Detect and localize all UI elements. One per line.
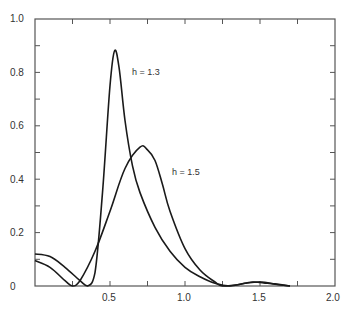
y-tick-label: 0 <box>10 281 16 292</box>
curve-h-1-5 <box>35 146 290 286</box>
y-tick-label: 1.0 <box>10 13 24 24</box>
plot-frame <box>35 19 335 286</box>
y-tick-label: 0.6 <box>10 120 24 131</box>
y-tick-label: 0.8 <box>10 67 24 78</box>
y-tick-label: 0.2 <box>10 227 24 238</box>
curve-label-h-1-3: h = 1.3 <box>132 67 160 77</box>
axis-ticks <box>35 19 335 286</box>
x-tick-label: 1.5 <box>252 292 266 303</box>
curve-label-h-1-5: h = 1.5 <box>172 167 200 177</box>
x-tick-label: 1.0 <box>177 292 191 303</box>
y-tick-label: 0.4 <box>10 174 24 185</box>
x-tick-label: 0.5 <box>102 292 116 303</box>
line-chart: 0 0.2 0.4 0.6 0.8 1.0 0.5 1.0 1.5 2.0 h … <box>0 0 356 314</box>
curve-h-1-3 <box>35 50 290 286</box>
x-tick-label: 2.0 <box>326 292 340 303</box>
